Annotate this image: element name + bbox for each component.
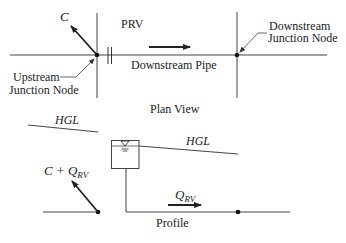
profile-view: HGL HGL C + QRV QRV Profile [28, 113, 290, 230]
downstream-pipe-label: Downstream Pipe [131, 58, 217, 72]
c-plus-q-subscript: RV [76, 170, 89, 180]
reservoir-tank [112, 141, 140, 169]
upstream-junction-node [95, 53, 100, 58]
plan-view-title: Plan View [150, 102, 200, 116]
prv-diagram: C PRV Downstream Pipe Upstream Junction … [0, 0, 346, 243]
downstream-junction-node [235, 53, 240, 58]
q-rv-label: QRV [175, 187, 197, 204]
plan-view: C PRV Downstream Pipe Upstream Junction … [9, 9, 338, 116]
downstream-callout-pointer-icon [240, 33, 258, 52]
profile-downstream-node [236, 210, 241, 215]
profile-title: Profile [156, 216, 189, 230]
c-plus-q-label: C + QRV [44, 163, 90, 180]
upstream-junction-label-line2: Junction Node [9, 83, 79, 97]
c-flow-arrow-icon [71, 26, 97, 55]
hgl-left-label: HGL [54, 113, 79, 127]
downstream-junction-label-line2: Junction Node [268, 31, 338, 45]
c-label: C [60, 9, 69, 24]
upstream-junction-label-line1: Upstream [13, 70, 60, 84]
hgl-right-label: HGL [185, 134, 210, 148]
upstream-callout-pointer-icon [76, 59, 94, 77]
q-rv-subscript: RV [183, 194, 196, 204]
c-plus-q-arrow-icon [72, 181, 98, 212]
prv-label: PRV [121, 17, 144, 31]
